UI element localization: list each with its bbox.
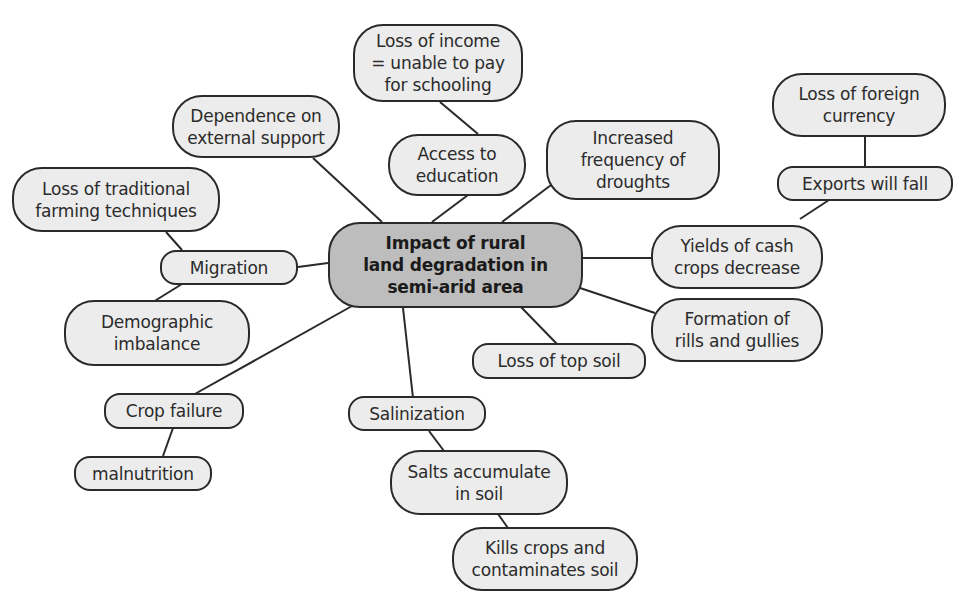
edge-migration-traditional-farming bbox=[166, 232, 182, 250]
edge-center-rills bbox=[580, 288, 655, 313]
node-loss-of-top-soil: Loss of top soil bbox=[472, 343, 646, 379]
edge-cash-crops-exports bbox=[800, 200, 829, 219]
node-formation-of-rills-and-gullies: Formation of rills and gullies bbox=[651, 298, 823, 362]
node-migration: Migration bbox=[160, 250, 298, 285]
node-loss-of-traditional-farming-techniques: Loss of traditional farming techniques bbox=[12, 167, 220, 232]
edge-center-dependence bbox=[313, 158, 382, 222]
node-salts-accumulate-in-soil: Salts accumulate in soil bbox=[390, 450, 568, 515]
center-topic-node: Impact of rural land degradation in semi… bbox=[328, 222, 583, 308]
node-access-to-education: Access to education bbox=[388, 134, 526, 196]
node-kills-crops-and-contaminates-soil: Kills crops and contaminates soil bbox=[452, 527, 638, 591]
node-loss-of-foreign-currency: Loss of foreign currency bbox=[772, 73, 946, 137]
edge-center-top-soil bbox=[520, 306, 557, 344]
edge-center-migration bbox=[298, 263, 328, 267]
edge-center-access-education bbox=[432, 195, 468, 222]
node-demographic-imbalance: Demographic imbalance bbox=[64, 300, 250, 366]
edge-access-education-loss-income bbox=[440, 102, 478, 134]
node-loss-of-income: Loss of income = unable to pay for schoo… bbox=[353, 24, 523, 102]
edge-salinization-salts bbox=[429, 431, 444, 451]
node-salinization: Salinization bbox=[348, 396, 486, 431]
edge-crop-failure-malnutrition bbox=[163, 428, 173, 456]
node-yields-of-cash-crops-decrease: Yields of cash crops decrease bbox=[651, 225, 823, 289]
node-malnutrition: malnutrition bbox=[74, 456, 212, 491]
node-exports-will-fall: Exports will fall bbox=[777, 166, 953, 201]
node-crop-failure: Crop failure bbox=[104, 393, 244, 429]
edge-center-salinization bbox=[403, 308, 413, 398]
edge-salts-kills bbox=[498, 514, 508, 528]
node-dependence-on-external-support: Dependence on external support bbox=[172, 95, 340, 158]
node-increased-frequency-of-droughts: Increased frequency of droughts bbox=[546, 120, 720, 200]
